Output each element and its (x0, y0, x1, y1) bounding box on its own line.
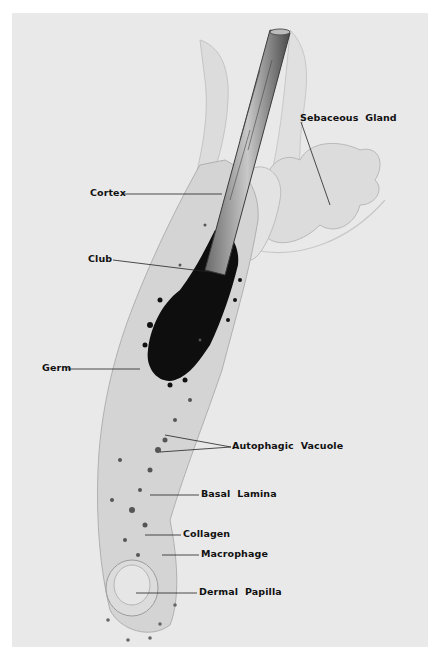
label-basal-lamina: Basal Lamina (201, 488, 277, 499)
label-club: Club (88, 253, 112, 264)
label-dermal-papilla: Dermal Papilla (199, 586, 282, 597)
label-cortex: Cortex (90, 187, 126, 198)
label-autophagic-vacuole: Autophagic Vacuole (232, 440, 343, 451)
label-germ: Germ (42, 362, 71, 373)
label-sebaceous-gland: Sebaceous Gland (300, 112, 397, 123)
hair-follicle-illustration (0, 0, 440, 662)
label-collagen: Collagen (183, 528, 230, 539)
label-macrophage: Macrophage (201, 548, 268, 559)
